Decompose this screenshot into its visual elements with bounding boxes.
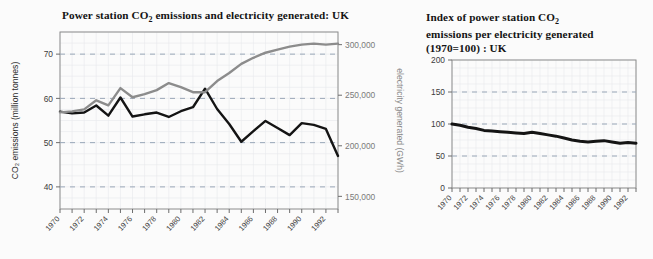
left-chart-xticklabel: 1986 [237, 214, 255, 233]
right-chart-yticklabel: 100 [431, 119, 445, 129]
right-chart-yticklabel: 200 [431, 55, 445, 65]
left-chart-xticklabel: 1976 [116, 214, 134, 233]
right-chart-xticklabel: 1978 [499, 193, 517, 212]
left-chart-xticklabel: 1982 [189, 214, 207, 233]
right-chart-title: Index of power station CO2 emissions per… [426, 11, 644, 55]
right-chart-yticklabel: 150 [431, 87, 445, 97]
right-chart-xticklabel: 1986 [563, 193, 581, 212]
left-chart-y2ticklabel: 200,000 [345, 141, 376, 151]
left-chart-panel: Power station CO2 emissions and electric… [0, 0, 410, 259]
right-chart-xticklabel: 1982 [531, 193, 549, 212]
right-chart-xticklabel: 1990 [595, 193, 613, 212]
left-chart-plot: 40506070150,000200,000250,000300,0001970… [0, 22, 410, 259]
right-chart-svg: 0501001502001970197219741976197819801982… [410, 52, 653, 259]
right-chart-xticklabel: 1984 [547, 193, 565, 212]
left-chart-title-prefix: Power station CO [62, 9, 149, 21]
page-canvas: Power station CO2 emissions and electric… [0, 0, 653, 259]
left-chart-xticklabel: 1990 [285, 214, 303, 233]
left-chart-yticklabel: 50 [44, 138, 54, 148]
right-chart-title-line2: emissions per electricity generated [426, 28, 594, 40]
left-chart-y-axis-title: CO₂ emissions (million tonnes) [10, 62, 20, 180]
left-chart-xticklabel: 1978 [140, 214, 158, 233]
right-chart-xticklabel: 1974 [467, 193, 485, 212]
right-chart-xticklabel: 1988 [579, 193, 597, 212]
right-chart-yticklabel: 0 [440, 183, 445, 193]
left-chart-yticklabel: 60 [44, 94, 54, 104]
right-chart-xticklabel: 1976 [483, 193, 501, 212]
left-chart-y2ticklabel: 250,000 [345, 90, 376, 100]
left-chart-title-suffix: emissions and electricity generated: UK [153, 9, 349, 21]
right-chart-xticklabel: 1972 [451, 193, 469, 212]
left-chart-xticklabel: 1988 [261, 214, 279, 233]
right-chart-title-subscript: 2 [555, 17, 559, 26]
right-chart-plot: 0501001502001970197219741976197819801982… [410, 52, 653, 259]
right-chart-title-line1: Index of power station CO2 [426, 11, 559, 23]
left-chart-yticklabel: 40 [44, 182, 54, 192]
right-chart-xticklabel: 1992 [611, 193, 629, 212]
left-chart-svg: 40506070150,000200,000250,000300,0001970… [0, 22, 410, 259]
left-chart-y2ticklabel: 300,000 [345, 40, 376, 50]
right-chart-yticklabel: 50 [436, 151, 446, 161]
left-chart-frame [60, 32, 338, 209]
right-chart-panel: Index of power station CO2 emissions per… [410, 0, 653, 259]
left-chart-y2-axis-title: electricity generated (GWh) [395, 68, 405, 173]
right-chart-title-prefix: Index of power station CO [426, 11, 555, 23]
left-chart-xticklabel: 1984 [213, 214, 231, 233]
left-chart-xticklabel: 1970 [43, 214, 61, 233]
left-chart-xticklabel: 1972 [68, 214, 86, 233]
left-chart-yticklabel: 70 [44, 49, 54, 59]
right-chart-xticklabel: 1980 [515, 193, 533, 212]
left-chart-xticklabel: 1992 [309, 214, 327, 233]
left-chart-y2ticklabel: 150,000 [345, 192, 376, 202]
left-chart-xticklabel: 1974 [92, 214, 110, 233]
left-chart-xticklabel: 1980 [164, 214, 182, 233]
right-chart-xticklabel: 1970 [435, 193, 453, 212]
